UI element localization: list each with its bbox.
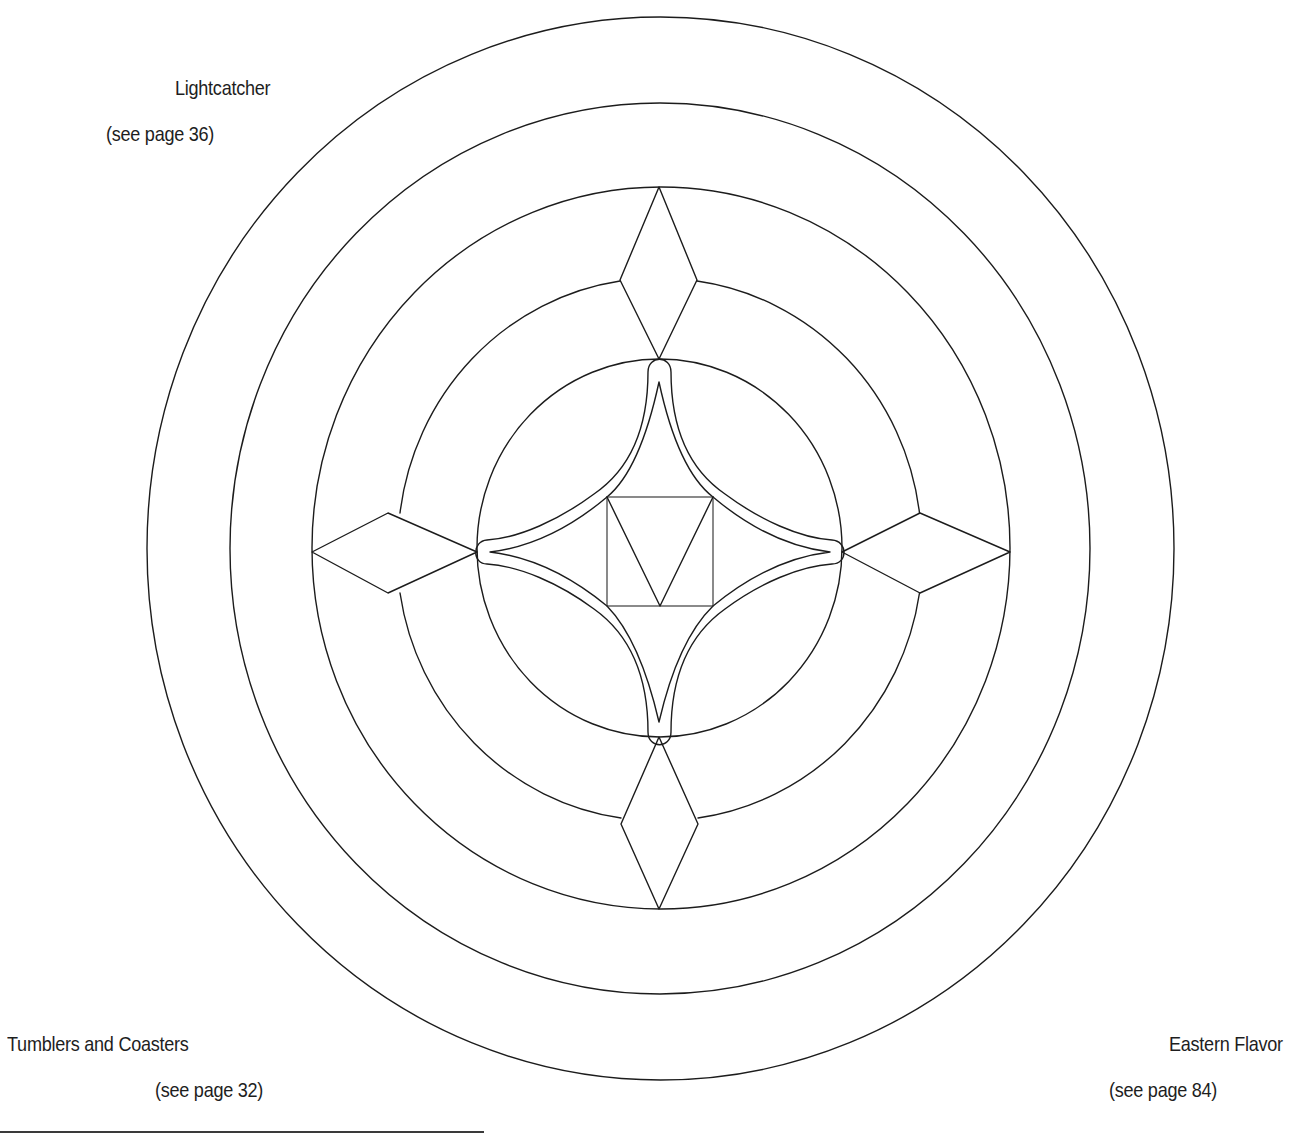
third-ring — [312, 187, 1010, 909]
outer-ring — [147, 17, 1174, 1080]
tumblers-coasters-page-ref[interactable]: (see page 32) — [155, 1078, 263, 1102]
center-square — [607, 497, 713, 606]
diamond-left — [312, 513, 477, 593]
eastern-flavor-title: Eastern Flavor — [1169, 1032, 1283, 1056]
center-v — [607, 497, 713, 606]
second-ring — [230, 103, 1090, 994]
star-inner — [490, 382, 830, 722]
lightcatcher-page-ref[interactable]: (see page 36) — [106, 122, 214, 146]
diamond-right — [842, 513, 1010, 593]
pattern-drawing — [0, 0, 1304, 1133]
tumblers-coasters-title: Tumblers and Coasters — [7, 1032, 189, 1056]
lightcatcher-title: Lightcatcher — [175, 76, 270, 100]
diamond-bottom — [621, 737, 698, 909]
eastern-flavor-page-ref[interactable]: (see page 84) — [1109, 1078, 1217, 1102]
diamond-top — [620, 187, 697, 359]
inner-ring — [477, 359, 842, 737]
star-outer — [476, 359, 844, 745]
